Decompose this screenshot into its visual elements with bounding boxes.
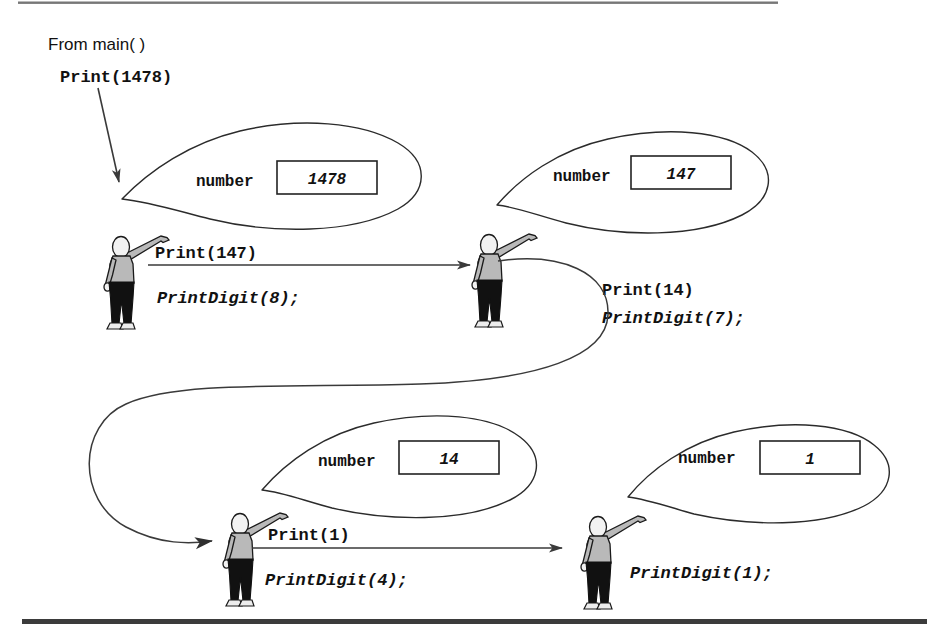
frame-1-call-label: Print(147) (155, 244, 257, 263)
frame-3-param-label: number (318, 453, 376, 471)
main-entry-arrow (98, 88, 119, 182)
frame-2-param-label: number (553, 168, 611, 186)
frame-4-group: number 1 PrintDigit(1); (581, 425, 889, 609)
frame-4-person (581, 516, 646, 609)
from-main-caption: From main( ) (48, 35, 145, 54)
initial-call-label: Print(1478) (60, 68, 172, 87)
frame-2-person (472, 234, 537, 327)
frame-4-param-value: 1 (805, 451, 815, 469)
recursion-trace-figure: From main( ) Print(1478) number 1478 Pri… (0, 0, 948, 642)
frame-1-param-label: number (196, 173, 254, 191)
frame-3-param-value: 14 (439, 451, 459, 469)
frame-2-param-value: 147 (667, 166, 696, 184)
frame-4-param-label: number (678, 450, 736, 468)
diagram-canvas: From main( ) Print(1478) number 1478 Pri… (0, 0, 948, 642)
frame-1-group: number 1478 Print(147) PrintDigit(8); (104, 123, 470, 329)
frame-2-statement: PrintDigit(7); (602, 309, 745, 328)
frame-2-call-label: Print(14) (602, 281, 694, 300)
page-top-rule (18, 2, 778, 4)
frame-4-statement: PrintDigit(1); (630, 564, 773, 583)
frame-3-group: number 14 Print(1) PrintDigit(4); (223, 416, 562, 606)
page-bottom-rule (22, 619, 927, 624)
frame-1-statement: PrintDigit(8); (157, 289, 300, 308)
frame-3-statement: PrintDigit(4); (265, 571, 408, 590)
frame-1-param-value: 1478 (308, 171, 347, 189)
frame-3-call-label: Print(1) (268, 526, 350, 545)
